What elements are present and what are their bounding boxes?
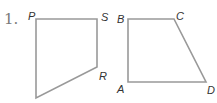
label-b: B bbox=[117, 13, 124, 25]
label-r: R bbox=[99, 70, 107, 82]
label-p: P bbox=[28, 10, 36, 22]
label-c: C bbox=[176, 10, 184, 22]
label-s: S bbox=[101, 11, 109, 23]
diagram-canvas: 1. P S R B C D A bbox=[0, 0, 217, 103]
quadrilateral-abcd bbox=[128, 19, 206, 82]
label-d: D bbox=[207, 84, 215, 96]
problem-number: 1. bbox=[4, 10, 18, 28]
label-a: A bbox=[116, 83, 124, 95]
quadrilateral-psr bbox=[36, 19, 97, 98]
